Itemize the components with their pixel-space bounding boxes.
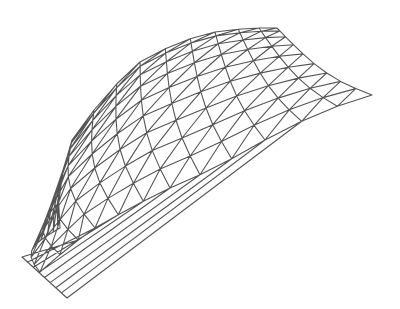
wireframe-mesh xyxy=(0,0,400,309)
mesh-lines xyxy=(22,28,372,298)
mesh-path xyxy=(22,28,372,298)
